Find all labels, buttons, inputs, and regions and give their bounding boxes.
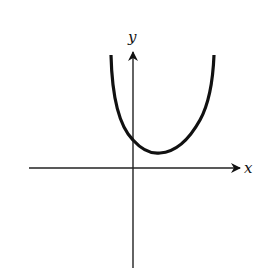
graph-canvas: y x <box>0 0 261 268</box>
function-curve <box>111 55 214 153</box>
y-axis-label: y <box>127 28 137 46</box>
x-axis-label: x <box>244 159 253 177</box>
